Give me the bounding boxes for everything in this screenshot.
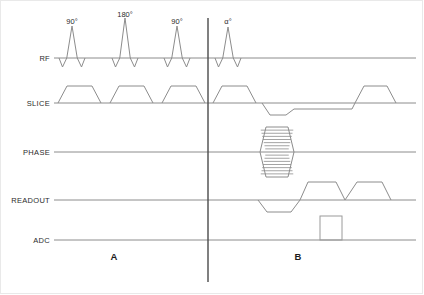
slice-lobe-3: [162, 86, 205, 103]
slice-rephase-step: [294, 103, 355, 109]
row-label-rf: RF: [39, 54, 50, 63]
row-label-adc: ADC: [33, 236, 50, 245]
rf-pulse-label-4: α°: [224, 17, 231, 26]
rf-pulse-label-2: 180°: [117, 10, 133, 19]
readout-lobe-1: [300, 182, 345, 200]
region-label-b: B: [295, 251, 302, 262]
rf-pulse-3: [164, 26, 190, 67]
slice-lobe-6: [355, 86, 396, 103]
rf-pulse-label-3: 90°: [171, 17, 182, 26]
row-label-slice: SLICE: [27, 99, 50, 108]
row-label-readout: READOUT: [11, 196, 50, 205]
slice-lobe-1: [58, 86, 101, 103]
row-label-phase: PHASE: [23, 148, 50, 157]
adc-sampling-window: [320, 216, 342, 240]
readout-lobe-2: [345, 182, 391, 200]
region-label-a: A: [111, 251, 118, 262]
rf-pulse-label-1: 90°: [66, 17, 77, 26]
pulse-sequence-diagram: RFSLICEPHASEREADOUTADC90°180°90°α°AB: [0, 0, 424, 295]
rf-pulse-2: [112, 18, 138, 67]
slice-lobe-2: [110, 86, 153, 103]
slice-lobe-4: [213, 86, 256, 103]
readout-dephase-lobe: [258, 200, 300, 212]
waveform-canvas: RFSLICEPHASEREADOUTADC90°180°90°α°AB: [0, 0, 424, 295]
slice-lobe-5: [262, 103, 294, 115]
rf-pulse-1: [59, 26, 85, 67]
rf-pulse-4: [215, 27, 241, 67]
